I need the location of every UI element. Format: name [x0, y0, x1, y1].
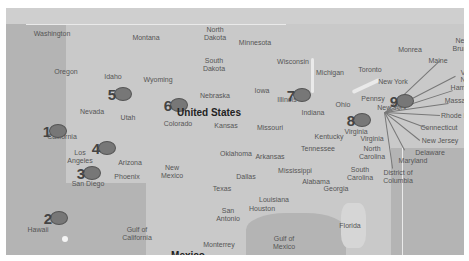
location-marker[interactable] — [98, 141, 116, 155]
gulf-of-mexico — [246, 213, 346, 255]
place-label: Monrea — [398, 46, 422, 54]
place-label: SanAntonio — [216, 207, 240, 223]
place-label: Toronto — [358, 66, 381, 74]
place-label: N — [460, 76, 464, 84]
place-label: Missouri — [257, 124, 283, 132]
place-label: V — [461, 69, 464, 77]
place-label: Pennsy — [361, 95, 384, 103]
place-label: New Jersey — [422, 137, 459, 145]
marker-number: 5 — [108, 87, 116, 102]
place-label: Louisiana — [259, 196, 289, 204]
place-label: Montana — [132, 34, 159, 42]
marker-number: 7 — [287, 88, 295, 103]
country-label: Mexico — [171, 252, 205, 255]
place-label: Tennessee — [301, 145, 335, 153]
location-marker[interactable] — [50, 211, 68, 225]
place-label: Idaho — [104, 73, 122, 81]
marker-number: 8 — [347, 113, 355, 128]
marker-number: 6 — [164, 98, 172, 113]
place-label: District ofColumbia — [383, 169, 413, 185]
location-marker[interactable] — [293, 88, 311, 102]
country-label: United States — [177, 109, 241, 117]
hawaii-island — [62, 236, 68, 242]
location-marker[interactable] — [49, 124, 67, 138]
place-label: LosAngeles — [67, 149, 92, 165]
place-label: Arizona — [118, 159, 142, 167]
map-viewport[interactable]: WashingtonMontanaNorthDakotaMinnesotaOre… — [6, 8, 464, 255]
place-label: NorthDakota — [204, 26, 226, 42]
place-label: Kansas — [214, 122, 237, 130]
place-label: Indiana — [302, 109, 325, 117]
location-marker[interactable] — [353, 113, 371, 127]
place-label: Virginia — [360, 135, 383, 143]
location-marker[interactable] — [114, 87, 132, 101]
place-label: Michigan — [316, 69, 344, 77]
place-label: New York — [378, 78, 408, 86]
place-label: Houston — [249, 205, 275, 213]
place-label: Iowa — [255, 87, 270, 95]
place-label: Wyoming — [143, 76, 172, 84]
place-label: NewMexico — [161, 164, 183, 180]
place-label: Dallas — [236, 173, 255, 181]
place-label: Rhode Is — [441, 112, 464, 120]
place-label: Gulf ofMexico — [273, 235, 295, 251]
place-label: Texas — [213, 185, 231, 193]
location-marker[interactable] — [83, 166, 101, 180]
lake-michigan — [311, 58, 314, 93]
place-label: Nebraska — [200, 92, 230, 100]
place-label: Mississippi — [278, 167, 312, 175]
place-label: Nevada — [80, 108, 104, 116]
marker-number: 9 — [390, 94, 398, 109]
marker-number: 2 — [44, 211, 52, 226]
place-label: Monterrey — [203, 241, 235, 249]
place-label: Utah — [121, 114, 136, 122]
place-label: Florida — [339, 222, 360, 230]
place-label: Kentucky — [315, 133, 344, 141]
marker-number: 1 — [43, 124, 51, 139]
place-label: Georgia — [324, 185, 349, 193]
place-label: Colorado — [164, 120, 192, 128]
place-label: Ohio — [336, 101, 351, 109]
location-marker[interactable] — [396, 94, 414, 108]
marker-number: 4 — [92, 141, 100, 156]
place-label: Washington — [34, 30, 71, 38]
canada-region — [6, 8, 464, 24]
pacific-ocean-south — [6, 183, 146, 255]
place-label: Delaware — [415, 149, 445, 157]
place-label: NeBrun — [453, 37, 464, 53]
place-label: Hawaii — [27, 226, 48, 234]
place-label: Wisconsin — [277, 58, 309, 66]
lake-erie — [352, 78, 381, 94]
place-label: Arkansas — [255, 153, 284, 161]
place-label: SouthCarolina — [347, 166, 373, 182]
canada-border — [26, 24, 286, 25]
place-label: Oklahoma — [220, 150, 252, 158]
place-label: Maryland — [399, 157, 428, 165]
place-label: Minnesota — [239, 39, 271, 47]
place-label: Phoenix — [114, 173, 139, 181]
marker-number: 3 — [77, 166, 85, 181]
leader-line — [384, 112, 420, 141]
place-label: Gulf ofCalifornia — [122, 226, 152, 242]
place-label: Oregon — [54, 68, 77, 76]
place-label: NorthCarolina — [359, 145, 385, 161]
place-label: SouthDakota — [203, 57, 225, 73]
